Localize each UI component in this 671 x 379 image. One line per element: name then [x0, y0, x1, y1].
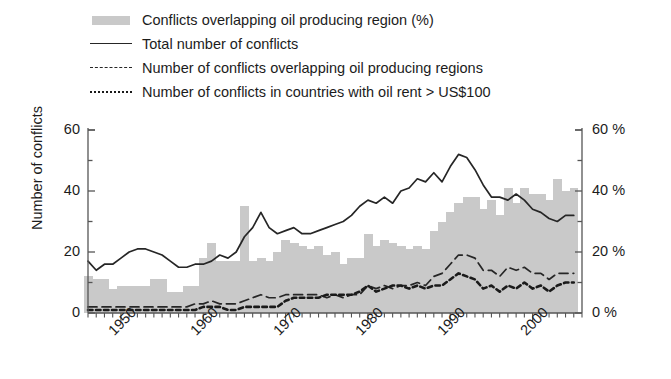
plot-area	[0, 0, 671, 379]
conflicts-oil-chart-figure: Conflicts overlapping oil producing regi…	[0, 0, 671, 379]
y-axis-left-tick: 20	[40, 243, 80, 259]
y-axis-left-tick: 40	[40, 182, 80, 198]
y-axis-right-tick: 20 %	[592, 243, 652, 259]
y-axis-left-tick: 0	[40, 304, 80, 320]
y-axis-right-tick: 40 %	[592, 182, 652, 198]
y-axis-left-tick: 60	[40, 121, 80, 137]
y-axis-right-tick: 0 %	[592, 304, 652, 320]
y-axis-right-tick: 60 %	[592, 121, 652, 137]
